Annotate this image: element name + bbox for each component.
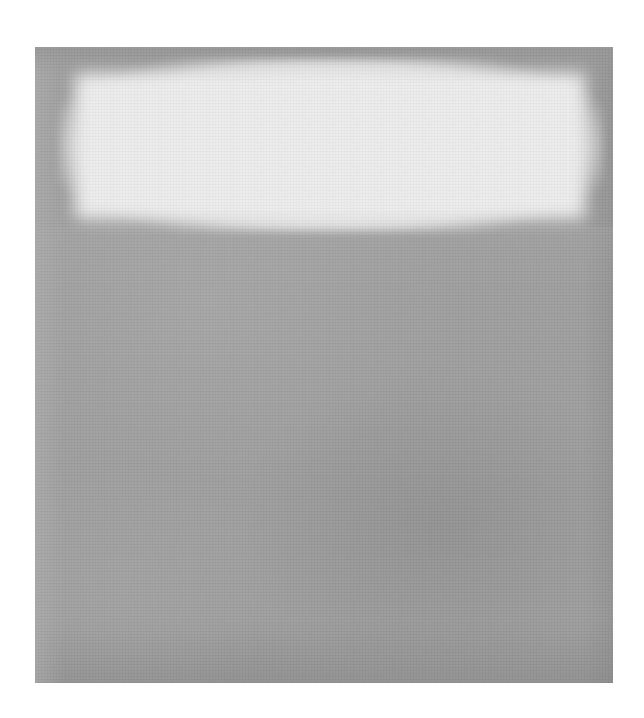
- light-rectangle-core: [75, 73, 585, 219]
- page: [0, 0, 644, 718]
- gray-field: [35, 227, 613, 683]
- painting-canvas: [35, 47, 613, 683]
